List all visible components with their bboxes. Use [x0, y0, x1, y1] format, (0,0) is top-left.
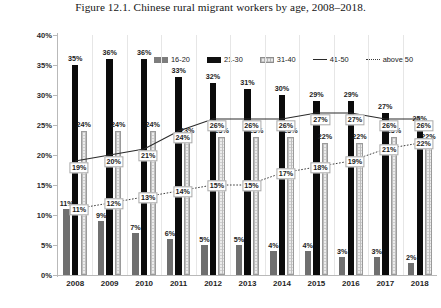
y-tick-mark [53, 215, 57, 216]
value-label-41-50-2012: 26% [207, 120, 226, 131]
value-label-above-50-2013: 15% [242, 180, 261, 191]
value-label-31-40-2015: 22% [318, 133, 332, 140]
value-label-41-50-2010: 21% [139, 150, 158, 161]
value-label-31-40-2016: 22% [352, 133, 366, 140]
x-axis-label-2013: 2013 [239, 279, 257, 288]
value-label-16-20-2014: 4% [268, 242, 278, 249]
y-tick-label-40: 40% [12, 31, 52, 40]
value-label-above-50-2009: 12% [104, 198, 123, 209]
value-label-41-50-2015: 27% [311, 114, 330, 125]
y-tick-label-35: 35% [12, 61, 52, 70]
value-label-16-20-2012: 5% [199, 236, 209, 243]
y-tick-mark [53, 245, 57, 246]
y-tick-mark [53, 95, 57, 96]
value-label-41-50-2009: 20% [104, 156, 123, 167]
y-tick-label-10: 10% [12, 211, 52, 220]
value-label-41-50-2018: 26% [414, 120, 433, 131]
y-tick-label-25: 25% [12, 121, 52, 130]
value-label-21-30-2010: 36% [137, 49, 151, 56]
x-axis-label-2011: 2011 [170, 279, 187, 288]
value-label-above-50-2012: 15% [207, 180, 226, 191]
x-axis-label-2015: 2015 [308, 279, 326, 288]
value-label-21-30-2014: 30% [275, 85, 289, 92]
value-label-41-50-2013: 26% [242, 120, 261, 131]
y-tick-label-30: 30% [12, 91, 52, 100]
value-label-above-50-2018: 22% [414, 138, 433, 149]
value-label-above-50-2011: 14% [173, 186, 192, 197]
value-label-41-50-2017: 26% [380, 120, 399, 131]
y-tick-label-0: 0% [12, 271, 52, 280]
value-label-above-50-2015: 18% [311, 162, 330, 173]
value-label-41-50-2016: 27% [345, 114, 364, 125]
y-tick-mark [53, 155, 57, 156]
value-label-31-40-2010: 24% [146, 121, 160, 128]
value-label-above-50-2017: 21% [380, 144, 399, 155]
x-axis-label-2008: 2008 [66, 279, 84, 288]
x-axis-label-2010: 2010 [135, 279, 153, 288]
value-label-21-30-2016: 29% [344, 91, 358, 98]
value-label-above-50-2008: 11% [70, 204, 89, 215]
x-axis-label-2018: 2018 [411, 279, 429, 288]
value-label-21-30-2015: 29% [309, 91, 323, 98]
y-tick-mark [53, 125, 57, 126]
value-label-41-50-2014: 26% [276, 120, 295, 131]
value-label-16-20-2013: 5% [234, 236, 244, 243]
value-label-31-40-2008: 24% [77, 121, 91, 128]
value-label-16-20-2015: 4% [303, 242, 313, 249]
value-label-above-50-2016: 19% [345, 156, 364, 167]
value-label-41-50-2008: 19% [70, 162, 89, 173]
y-tick-label-5: 5% [12, 241, 52, 250]
figure-page: Figure 12.1. Chinese rural migrant worke… [0, 0, 441, 308]
value-label-21-30-2013: 31% [240, 79, 254, 86]
x-axis-label-2009: 2009 [101, 279, 119, 288]
x-axis-label-2012: 2012 [204, 279, 222, 288]
x-axis-line [57, 275, 437, 276]
value-label-16-20-2017: 3% [372, 248, 382, 255]
value-label-21-30-2017: 27% [378, 103, 392, 110]
x-axis-label-2016: 2016 [342, 279, 360, 288]
value-label-21-30-2009: 36% [102, 49, 116, 56]
value-label-41-50-2011: 24% [173, 132, 192, 143]
y-tick-mark [53, 65, 57, 66]
y-tick-mark [53, 275, 57, 276]
value-label-21-30-2008: 35% [68, 55, 82, 62]
value-label-31-40-2009: 24% [111, 121, 125, 128]
figure-caption: Figure 12.1. Chinese rural migrant worke… [0, 1, 441, 13]
value-label-16-20-2016: 3% [337, 248, 347, 255]
chart-area: 16-20 21-30 31-40 41-50 above 50 0%5%10%… [24, 27, 437, 280]
value-label-16-20-2011: 6% [165, 230, 175, 237]
x-axis-label-2017: 2017 [376, 279, 394, 288]
x-axis-label-2014: 2014 [273, 279, 291, 288]
line-above 50[interactable] [75, 143, 420, 209]
y-tick-mark [53, 35, 57, 36]
value-label-above-50-2014: 17% [276, 168, 295, 179]
value-label-16-20-2010: 7% [130, 224, 140, 231]
value-label-16-20-2018: 2% [406, 254, 416, 261]
y-tick-label-20: 20% [12, 151, 52, 160]
y-tick-label-15: 15% [12, 181, 52, 190]
value-label-21-30-2011: 33% [171, 67, 185, 74]
plot-area: 11%35%24%19%11%9%36%24%20%12%7%36%24%21%… [58, 35, 437, 275]
value-label-16-20-2009: 9% [96, 212, 106, 219]
y-tick-mark [53, 185, 57, 186]
value-label-above-50-2010: 13% [139, 192, 158, 203]
value-label-21-30-2012: 32% [206, 73, 220, 80]
